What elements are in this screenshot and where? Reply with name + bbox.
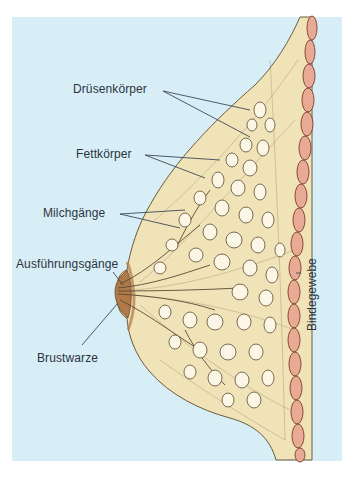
label-brustwarze: Brustwarze [37, 351, 98, 365]
label-bindegewebe: Bindegewebe [305, 258, 319, 331]
anatomy-diagram: Drüsenkörper Fettkörper Milchgänge Ausfü… [0, 0, 347, 485]
label-ausfuehrungsgaenge: Ausführungsgänge [16, 257, 118, 271]
label-fettkoerper: Fettkörper [76, 147, 132, 161]
breast-cross-section-illustration [0, 0, 347, 485]
label-druesenkoerper: Drüsenkörper [73, 82, 147, 96]
label-milchgaenge: Milchgänge [43, 206, 105, 220]
